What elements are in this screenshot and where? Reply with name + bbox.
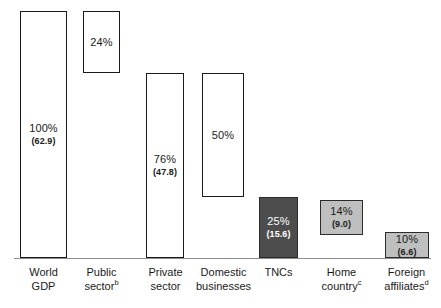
- bar-private-sector-percent: 76%: [154, 153, 176, 166]
- bar-home-country: 14% (9.0): [320, 200, 363, 235]
- bar-tncs-value: (15.6): [266, 228, 290, 240]
- axis-label-public-sector-line1: Public: [87, 266, 117, 278]
- axis-label-domestic-businesses-line1: Domestic: [201, 266, 247, 278]
- axis-label-foreign-affiliates-superscript: d: [424, 278, 428, 287]
- bar-foreign-affiliates-percent: 10%: [396, 233, 418, 246]
- axis-label-tncs: TNCs: [248, 265, 309, 279]
- bar-tncs: 25% (15.6): [259, 197, 298, 258]
- axis-label-foreign-affiliates-line2: affiliates: [384, 280, 424, 292]
- axis-label-home-country-line2: country: [322, 280, 358, 292]
- bar-private-sector: 76% (47.8): [146, 73, 184, 258]
- waterfall-chart: 100% (62.9) 24% 76% (47.8) 50% 25% (15.6…: [0, 0, 441, 308]
- axis-label-private-sector-line2: sector: [151, 280, 181, 292]
- bar-world-gdp: 100% (62.9): [20, 11, 67, 258]
- axis-label-private-sector: Private sector: [135, 265, 196, 293]
- bar-world-gdp-value: (62.9): [31, 135, 55, 147]
- axis-label-foreign-affiliates-line1: Foreign: [388, 266, 425, 278]
- bar-world-gdp-percent: 100%: [29, 122, 58, 135]
- x-axis-baseline: [14, 258, 431, 259]
- axis-label-tncs-line1: TNCs: [264, 266, 292, 278]
- bar-domestic-businesses: 50%: [202, 73, 244, 197]
- bar-private-sector-value: (47.8): [153, 166, 177, 178]
- x-axis-labels: World GDP Public sectorb Private sector …: [0, 260, 441, 308]
- bar-foreign-affiliates: 10% (6.6): [385, 232, 429, 258]
- axis-label-world-gdp-line2: GDP: [32, 280, 56, 292]
- axis-label-world-gdp-line1: World: [29, 266, 58, 278]
- bar-home-country-value: (9.0): [332, 218, 351, 230]
- axis-label-public-sector-superscript: b: [114, 278, 118, 287]
- bar-domestic-businesses-percent: 50%: [212, 129, 234, 142]
- bar-home-country-percent: 14%: [330, 205, 352, 218]
- axis-label-world-gdp: World GDP: [13, 265, 74, 293]
- axis-label-home-country: Home countryc: [311, 265, 372, 293]
- axis-label-home-country-line1: Home: [327, 266, 356, 278]
- bar-foreign-affiliates-value: (6.6): [397, 246, 416, 258]
- axis-label-home-country-superscript: c: [358, 278, 362, 287]
- axis-label-public-sector: Public sectorb: [71, 265, 132, 293]
- axis-label-domestic-businesses-line2: businesses: [196, 280, 251, 292]
- bar-public-sector: 24%: [83, 11, 120, 73]
- axis-label-public-sector-line2: sector: [84, 280, 114, 292]
- bar-public-sector-percent: 24%: [90, 36, 112, 49]
- bar-tncs-percent: 25%: [267, 215, 289, 228]
- axis-label-private-sector-line1: Private: [148, 266, 182, 278]
- axis-label-foreign-affiliates: Foreign affiliatesd: [372, 265, 441, 293]
- plot-area: 100% (62.9) 24% 76% (47.8) 50% 25% (15.6…: [0, 0, 441, 258]
